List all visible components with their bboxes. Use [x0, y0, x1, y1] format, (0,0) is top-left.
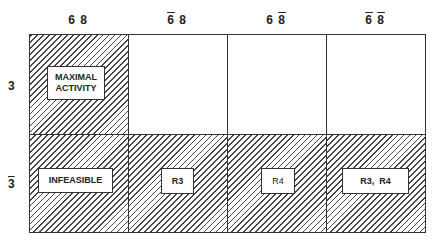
label-text: R3, R4: [360, 176, 391, 187]
row-label-not3: 3: [8, 177, 15, 191]
label-text: INFEASIBLE: [49, 175, 103, 186]
label-text: R3: [172, 176, 184, 187]
cell-r1c3: [228, 35, 327, 135]
label-box-r3-r4: R3, R4: [342, 168, 409, 194]
cell-r2c2: R3: [129, 135, 228, 232]
header-digit: 8: [80, 13, 88, 27]
label-text: R4: [272, 176, 284, 187]
header-digit: 6: [266, 13, 274, 27]
header-digit: 8: [179, 13, 187, 27]
label-text: ACTIVITY: [55, 83, 96, 94]
cell-r2c1: INFEASIBLE: [30, 135, 129, 232]
cell-r1c4: [327, 35, 425, 135]
column-header-68: 6 8: [48, 13, 108, 27]
label-text: MAXIMAL: [55, 72, 97, 83]
label-box-r4: R4: [261, 168, 295, 194]
header-digit-negated: 6: [167, 13, 175, 27]
header-digit: 6: [68, 13, 76, 27]
cell-r1c1: MAXIMAL ACTIVITY: [30, 35, 129, 135]
cell-r2c4: R3, R4: [327, 135, 425, 232]
column-header-not6-not8: 6 8: [345, 13, 405, 27]
column-header-not6-8: 6 8: [147, 13, 207, 27]
label-box-infeasible: INFEASIBLE: [38, 168, 113, 193]
header-digit-negated: 6: [365, 13, 373, 27]
header-digit-negated: 8: [377, 13, 385, 27]
row-label-3: 3: [8, 79, 15, 93]
cell-r2c3: R4: [228, 135, 327, 232]
cell-r1c2: [129, 35, 228, 135]
column-header-6-not8: 6 8: [246, 13, 306, 27]
label-box-maximal-activity: MAXIMAL ACTIVITY: [47, 66, 105, 100]
header-digit-negated: 8: [278, 13, 286, 27]
truth-table-grid: MAXIMAL ACTIVITY INFEASIBLE R3 R4 R3, R4: [29, 34, 426, 233]
label-box-r3: R3: [161, 168, 194, 194]
